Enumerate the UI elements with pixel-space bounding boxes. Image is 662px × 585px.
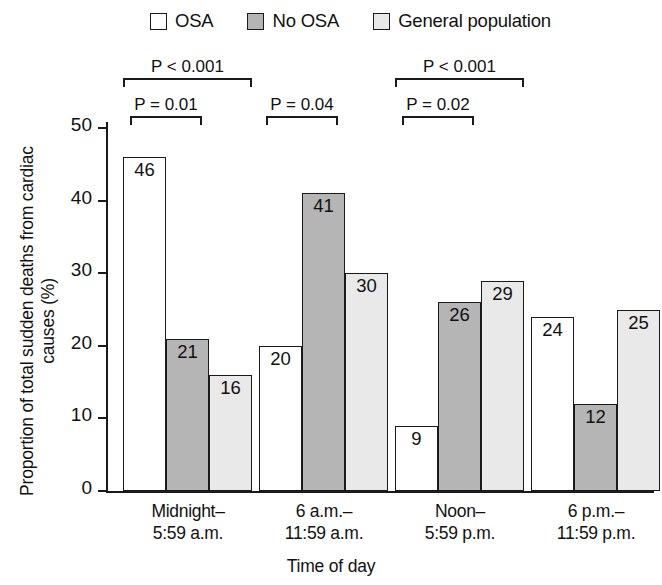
chart-legend: OSA No OSA General population bbox=[150, 6, 620, 36]
legend-label-no-osa: No OSA bbox=[272, 12, 339, 31]
bar-value-g2-no-osa: 41 bbox=[303, 197, 344, 216]
chart-figure: OSA No OSA General population Proportion… bbox=[0, 0, 662, 585]
pvalue-g2-inner-bracket bbox=[266, 116, 338, 125]
legend-label-general-population: General population bbox=[398, 12, 551, 31]
bar-value-g3-no-osa: 26 bbox=[439, 306, 480, 325]
legend-swatch-osa-icon bbox=[150, 13, 167, 30]
bar-g3-no-osa: 26 bbox=[438, 302, 481, 491]
y-tick-20: 20 bbox=[98, 345, 107, 347]
pvalue-g3-inner-text: P = 0.02 bbox=[402, 96, 474, 113]
y-axis-title: Proportion of total sudden deaths from c… bbox=[17, 131, 59, 511]
x-group-label-4-line1: 6 p.m.– bbox=[506, 500, 662, 522]
pvalue-g1-outer-text: P < 0.001 bbox=[123, 58, 252, 75]
bar-value-g4-general-population: 25 bbox=[618, 314, 659, 333]
bar-g2-no-osa: 41 bbox=[302, 193, 345, 491]
bar-g2-general-population: 30 bbox=[345, 273, 388, 491]
legend-item-no-osa: No OSA bbox=[247, 12, 339, 31]
bar-value-g1-general-population: 16 bbox=[210, 379, 251, 398]
y-tick-label-40: 40 bbox=[71, 188, 92, 207]
bar-g3-general-population: 29 bbox=[481, 281, 524, 492]
bar-g3-osa: 9 bbox=[395, 426, 438, 491]
bar-g1-osa: 46 bbox=[123, 157, 166, 491]
bar-value-g1-no-osa: 21 bbox=[167, 343, 208, 362]
bar-value-g2-osa: 20 bbox=[260, 350, 301, 369]
bar-value-g3-osa: 9 bbox=[396, 430, 437, 449]
pvalue-g2-inner-text: P = 0.04 bbox=[266, 96, 338, 113]
y-axis-line bbox=[106, 122, 108, 491]
pvalue-g1-outer-bracket bbox=[123, 78, 252, 87]
pvalue-g1-inner-bracket bbox=[130, 116, 202, 125]
bar-g2-osa: 20 bbox=[259, 346, 302, 491]
legend-swatch-no-osa-icon bbox=[247, 13, 264, 30]
pvalue-g3-outer-text: P < 0.001 bbox=[395, 58, 524, 75]
y-tick-0: 0 bbox=[98, 490, 107, 492]
bar-g4-osa: 24 bbox=[531, 317, 574, 491]
y-tick-10: 10 bbox=[98, 417, 107, 419]
legend-item-general-population: General population bbox=[373, 12, 551, 31]
bar-g1-general-population: 16 bbox=[209, 375, 252, 491]
x-axis-line bbox=[106, 491, 654, 493]
legend-swatch-general-population-icon bbox=[373, 13, 390, 30]
pvalue-g3-outer-bracket bbox=[395, 78, 524, 87]
y-tick-label-0: 0 bbox=[81, 478, 92, 497]
y-tick-label-30: 30 bbox=[71, 260, 92, 279]
y-tick-label-10: 10 bbox=[71, 405, 92, 424]
bar-value-g3-general-population: 29 bbox=[482, 285, 523, 304]
bar-value-g2-general-population: 30 bbox=[346, 277, 387, 296]
bar-value-g4-osa: 24 bbox=[532, 321, 573, 340]
x-axis-title: Time of day bbox=[0, 556, 662, 577]
bar-g4-no-osa: 12 bbox=[574, 404, 617, 491]
bar-g4-general-population: 25 bbox=[617, 310, 660, 492]
x-group-label-4: 6 p.m.– 11:59 p.m. bbox=[506, 500, 662, 544]
bar-g1-no-osa: 21 bbox=[166, 339, 209, 492]
pvalue-g1-inner-text: P = 0.01 bbox=[130, 96, 202, 113]
legend-label-osa: OSA bbox=[175, 12, 213, 31]
pvalue-g3-inner-bracket bbox=[402, 116, 474, 125]
y-tick-50: 50 bbox=[98, 127, 107, 129]
bar-value-g1-osa: 46 bbox=[124, 161, 165, 180]
legend-item-osa: OSA bbox=[150, 12, 213, 31]
y-tick-label-20: 20 bbox=[71, 333, 92, 352]
y-tick-40: 40 bbox=[98, 200, 107, 202]
bar-value-g4-no-osa: 12 bbox=[575, 408, 616, 427]
x-group-label-4-line2: 11:59 p.m. bbox=[506, 522, 662, 544]
y-tick-label-50: 50 bbox=[71, 115, 92, 134]
plot-area: 50 40 30 20 10 0 46 21 16 20 bbox=[107, 128, 652, 491]
y-tick-30: 30 bbox=[98, 272, 107, 274]
